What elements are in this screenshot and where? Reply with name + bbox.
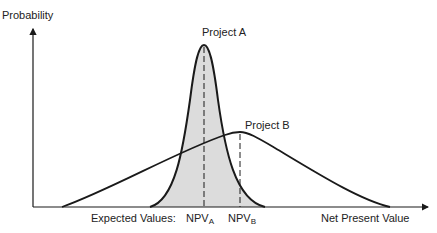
project-b-label: Project B: [245, 119, 290, 131]
npv-a-label: NPVA: [186, 212, 214, 226]
x-axis-label: Net Present Value: [321, 212, 409, 224]
y-axis-label: Probability: [2, 9, 53, 21]
npv-b-main: NPV: [228, 212, 251, 224]
expected-values-label: Expected Values:: [91, 212, 176, 224]
project-a-label: Project A: [202, 26, 246, 38]
npv-b-label: NPVB: [228, 212, 256, 226]
npv-a-sub: A: [209, 217, 214, 226]
npv-a-main: NPV: [186, 212, 209, 224]
npv-b-sub: B: [251, 217, 256, 226]
